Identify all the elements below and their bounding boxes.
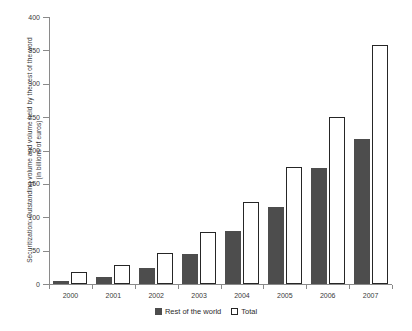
x-axis-tick-label-2002: 2002 (136, 292, 176, 300)
chart-legend: Rest of the world Total (0, 307, 412, 316)
x-axis-tick-label-2003: 2003 (179, 292, 219, 300)
y-axis-tick-label: 400 (14, 14, 40, 21)
x-axis-tick (263, 285, 264, 289)
legend-item-rest-of-the-world: Rest of the world (155, 307, 221, 316)
x-axis-tick (92, 285, 93, 289)
y-axis-tick-label: 150 (14, 180, 40, 187)
bar-2003-total (200, 232, 216, 284)
bar-2001-rest-of-the-world (96, 277, 112, 284)
bar-2000-total (71, 272, 87, 284)
x-axis-tick (135, 285, 136, 289)
outlined-square-icon (231, 308, 238, 315)
bar-2007-rest-of-the-world (354, 139, 370, 285)
x-axis-tick-label-2006: 2006 (308, 292, 348, 300)
bar-2003-rest-of-the-world (182, 254, 198, 284)
x-axis-tick (178, 285, 179, 289)
x-axis-tick-label-2001: 2001 (93, 292, 133, 300)
securitization-bar-chart: Securitization: Outstanding volume and v… (0, 0, 412, 331)
plot-area (49, 17, 392, 284)
x-axis-tick-label-2005: 2005 (265, 292, 305, 300)
legend-label-rest-of-the-world: Rest of the world (165, 307, 221, 316)
bar-2002-rest-of-the-world (139, 268, 155, 284)
x-axis-tick-label-2007: 2007 (351, 292, 391, 300)
bar-2007-total (372, 45, 388, 284)
bar-2005-total (286, 167, 302, 284)
y-axis-tick-label: 50 (14, 247, 40, 254)
x-axis-tick (349, 285, 350, 289)
x-axis-tick (306, 285, 307, 289)
y-axis-tick-label: 100 (14, 214, 40, 221)
legend-label-total: Total (241, 307, 257, 316)
bar-2002-total (157, 253, 173, 284)
y-axis-tick-label: 0 (14, 281, 40, 288)
x-axis-tick-label-2000: 2000 (50, 292, 90, 300)
x-axis-tick-label-2004: 2004 (222, 292, 262, 300)
x-axis-tick (49, 285, 50, 289)
bar-2006-total (329, 117, 345, 284)
y-axis-tick-label: 300 (14, 80, 40, 87)
bar-2000-rest-of-the-world (53, 281, 69, 284)
y-axis-tick-label: 250 (14, 114, 40, 121)
y-axis-tick-label: 200 (14, 147, 40, 154)
x-axis-tick (392, 285, 393, 289)
y-axis-tick-label: 350 (14, 47, 40, 54)
bar-2004-total (243, 202, 259, 284)
filled-square-icon (155, 308, 162, 315)
legend-item-total: Total (231, 307, 257, 316)
bar-2004-rest-of-the-world (225, 231, 241, 284)
x-axis-tick (221, 285, 222, 289)
bar-2005-rest-of-the-world (268, 207, 284, 284)
bar-2006-rest-of-the-world (311, 168, 327, 284)
bar-2001-total (114, 265, 130, 284)
